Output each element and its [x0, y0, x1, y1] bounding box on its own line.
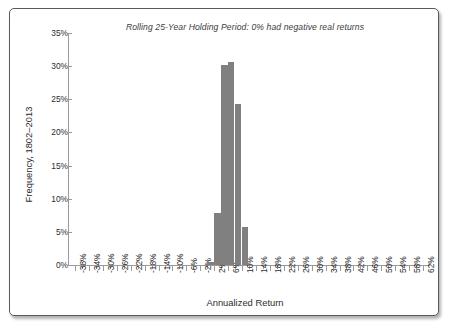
- x-axis-tick-mark-major: [256, 266, 257, 271]
- y-axis-tick-mark: [68, 232, 72, 233]
- y-axis-tick-label: 35%: [28, 29, 68, 37]
- x-axis-tick-mark-major: [284, 266, 285, 271]
- x-axis-tick-mark-major: [242, 266, 243, 271]
- x-axis-tick-mark-major: [353, 266, 354, 271]
- x-axis-tick-mark-major: [200, 266, 201, 271]
- y-axis-tick-label: 10%: [28, 195, 68, 203]
- x-axis-tick-mark-major: [117, 266, 118, 271]
- bar: [235, 104, 241, 265]
- x-axis-title: Annualized Return: [58, 297, 432, 308]
- y-axis-tick-mark: [68, 166, 72, 167]
- y-axis-tick-label: 20%: [28, 128, 68, 136]
- chart-figure-frame: Rolling 25-Year Holding Period: 0% had n…: [9, 8, 439, 316]
- bar: [228, 62, 234, 265]
- bar: [214, 213, 220, 265]
- x-axis-tick-mark-major: [312, 266, 313, 271]
- x-axis-tick-mark-major: [145, 266, 146, 271]
- y-axis-tick-mark: [68, 33, 72, 34]
- y-axis-tick-labels: 0%5%10%15%20%25%30%35%: [28, 9, 68, 317]
- x-axis-tick-mark-major: [186, 266, 187, 271]
- bar: [242, 227, 248, 265]
- chart-plot-area: Rolling 25-Year Holding Period: 0% had n…: [10, 9, 440, 317]
- x-axis-tick-mark-major: [75, 266, 76, 271]
- x-axis-tick-mark-major: [395, 266, 396, 271]
- y-axis-tick-label: 25%: [28, 95, 68, 103]
- y-axis-tick-mark: [68, 99, 72, 100]
- y-axis-tick-mark: [68, 132, 72, 133]
- x-axis-tick-mark-major: [214, 266, 215, 271]
- x-axis-tick-mark-major: [228, 266, 229, 271]
- y-axis-tick-label: 5%: [28, 228, 68, 236]
- x-axis-tick-mark-major: [298, 266, 299, 271]
- x-axis-tick-mark-major: [326, 266, 327, 271]
- chart-title: Rolling 25-Year Holding Period: 0% had n…: [58, 22, 432, 32]
- y-axis-tick-mark: [68, 66, 72, 67]
- bar: [207, 262, 213, 265]
- x-axis-tick-mark-major: [340, 266, 341, 271]
- x-axis-tick-mark-major: [103, 266, 104, 271]
- y-axis-tick-mark: [68, 265, 72, 266]
- x-axis-tick-mark-major: [381, 266, 382, 271]
- bar-series-frequency: [68, 33, 430, 265]
- x-axis-tick-mark-major: [409, 266, 410, 271]
- x-axis-tick-mark-major: [172, 266, 173, 271]
- y-axis-tick-mark: [68, 199, 72, 200]
- x-axis-tick-mark-major: [423, 266, 424, 271]
- y-axis-tick-label: 30%: [28, 62, 68, 70]
- x-axis-tick-mark-major: [131, 266, 132, 271]
- y-axis-tick-label: 0%: [28, 261, 68, 269]
- x-axis-tick-mark-major: [270, 266, 271, 271]
- x-axis-tick-mark-major: [159, 266, 160, 271]
- y-axis-tick-label: 15%: [28, 161, 68, 169]
- x-axis-tick-mark-major: [89, 266, 90, 271]
- bar: [221, 65, 227, 265]
- x-axis-tick-mark-major: [367, 266, 368, 271]
